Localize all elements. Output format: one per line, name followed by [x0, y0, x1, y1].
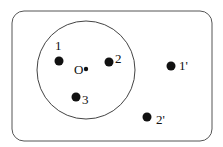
point-label: 2' [156, 112, 165, 127]
point-dot [143, 113, 152, 122]
point-label: 1 [55, 38, 62, 53]
point-dot [167, 62, 176, 71]
center-dot [84, 67, 88, 71]
outer-frame [12, 11, 212, 141]
point-1prime: 1' [167, 58, 188, 73]
point-dot [55, 57, 64, 66]
point-dot [72, 93, 81, 102]
diagram-canvas: O 1231'2' [0, 0, 223, 147]
point-label: 3 [82, 92, 89, 107]
center-label: O [74, 62, 83, 77]
point-dot [105, 58, 114, 67]
point-label: 1' [179, 58, 188, 73]
point-2: 2 [105, 51, 122, 67]
point-1: 1 [55, 38, 64, 66]
point-3: 3 [72, 92, 89, 107]
points-group: 1231'2' [55, 38, 188, 127]
point-label: 2 [115, 51, 122, 66]
center-point-o: O [74, 62, 88, 77]
point-2prime: 2' [143, 112, 165, 127]
